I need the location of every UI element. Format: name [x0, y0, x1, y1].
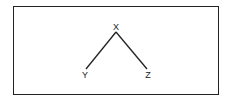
node-x-label: X — [113, 23, 119, 32]
edge-x-y — [86, 32, 116, 69]
node-z-label: Z — [145, 71, 151, 80]
node-y-label: Y — [82, 71, 88, 80]
tree-edges — [0, 0, 231, 101]
edge-x-z — [116, 32, 147, 69]
